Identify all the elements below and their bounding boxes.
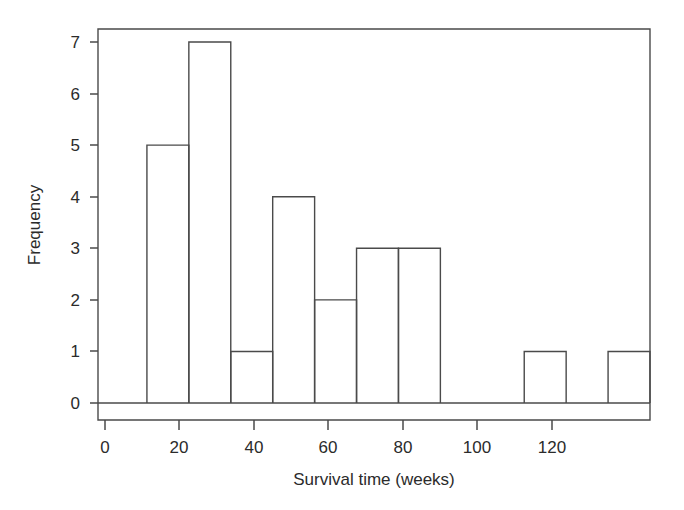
histogram-figure: 0 1 2 3 4 5 6 7 0 20 40 60 80 100 1	[0, 0, 684, 510]
x-tick-label-0: 0	[100, 438, 109, 457]
histogram-plot: 0 1 2 3 4 5 6 7 0 20 40 60 80 100 1	[0, 0, 684, 510]
y-tick-label-3: 3	[71, 239, 80, 258]
y-axis-ticks	[90, 42, 98, 403]
histogram-bar	[608, 351, 650, 403]
x-tick-label-20: 20	[170, 438, 189, 457]
y-tick-label-4: 4	[71, 188, 80, 207]
y-tick-label-6: 6	[71, 85, 80, 104]
y-axis-tick-labels: 0 1 2 3 4 5 6 7	[71, 33, 80, 413]
histogram-bar	[147, 145, 189, 403]
x-axis-title: Survival time (weeks)	[293, 470, 455, 489]
histogram-bar	[189, 42, 231, 403]
histogram-bar	[524, 351, 566, 403]
x-tick-label-100: 100	[463, 438, 491, 457]
x-tick-label-80: 80	[394, 438, 413, 457]
y-tick-label-1: 1	[71, 342, 80, 361]
plot-frame	[98, 29, 650, 420]
y-tick-label-5: 5	[71, 136, 80, 155]
y-tick-label-2: 2	[71, 291, 80, 310]
x-tick-label-60: 60	[319, 438, 338, 457]
histogram-bars	[147, 42, 650, 403]
x-tick-label-40: 40	[245, 438, 264, 457]
y-tick-label-7: 7	[71, 33, 80, 52]
x-tick-label-120: 120	[538, 438, 566, 457]
y-axis-title: Frequency	[25, 184, 44, 265]
histogram-bar	[273, 197, 315, 403]
x-axis-tick-labels: 0 20 40 60 80 100 120	[100, 438, 566, 457]
x-axis-ticks	[105, 420, 552, 430]
histogram-bar	[315, 300, 357, 403]
y-tick-label-0: 0	[71, 394, 80, 413]
histogram-bar	[398, 248, 440, 403]
histogram-bar	[231, 351, 273, 403]
histogram-bar	[357, 248, 399, 403]
